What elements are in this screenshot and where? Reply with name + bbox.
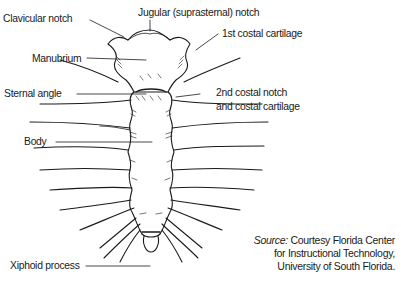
source-prefix: Source: [254,234,288,246]
source-line1: Courtesy Florida Center [288,234,395,246]
body-outline-right [160,92,174,234]
xiphoid-outline [142,234,160,252]
label-clavicular-notch: Clavicular notch [3,12,72,25]
source-line3: University of South Florida. [254,260,395,273]
leader-second-costal [176,94,200,97]
manubrium-outline [108,30,190,92]
label-body: Body [24,135,47,148]
leader-first-costal [196,34,218,50]
label-manubrium: Manubrium [32,52,81,65]
label-second-costal-line2: and costal cartilage [216,100,300,113]
label-second-costal-line1: 2nd costal notch [216,86,287,99]
label-first-costal-cartilage: 1st costal cartilage [222,27,302,40]
source-line2: for Instructional Technology, [254,247,395,260]
leader-clavicular [90,20,124,37]
label-xiphoid-process: Xiphoid process [10,259,80,272]
label-jugular-notch: Jugular (suprasternal) notch [138,6,259,19]
source-credit: Source: Courtesy Florida Center for Inst… [254,234,395,273]
body-outline-left [128,92,142,234]
label-sternal-angle: Sternal angle [4,87,61,100]
